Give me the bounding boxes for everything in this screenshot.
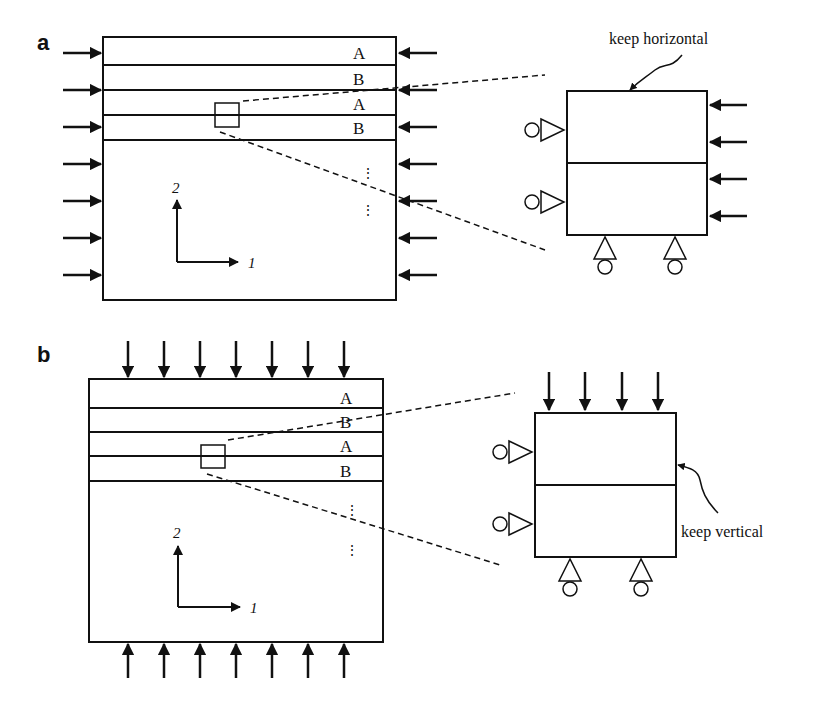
annotation-keep-horizontal: keep horizontal: [609, 30, 709, 48]
layer-label: A: [353, 95, 366, 114]
panel-label-a: a: [37, 30, 50, 55]
axis-label-1: 1: [250, 600, 258, 616]
panel-b: [89, 341, 718, 678]
svg-text:⋮: ⋮: [345, 543, 359, 558]
layer-label: B: [340, 413, 351, 432]
axis-label-2: 2: [173, 525, 181, 541]
svg-text:⋮: ⋮: [361, 203, 375, 218]
axis-label-1: 1: [248, 255, 256, 271]
layer-label: B: [340, 462, 351, 481]
svg-text:⋮: ⋮: [345, 503, 359, 518]
layer-label: B: [353, 70, 364, 89]
panel-a: [63, 37, 747, 300]
layer-label: A: [340, 437, 353, 456]
diagram: a b A B A B A B A B 2 1 2 1 keep horizon…: [0, 0, 821, 706]
layer-label: A: [353, 44, 366, 63]
annotation-keep-vertical: keep vertical: [681, 523, 764, 541]
layer-label: B: [353, 119, 364, 138]
layer-label: A: [340, 389, 353, 408]
panel-label-b: b: [37, 342, 50, 367]
svg-text:⋮: ⋮: [361, 166, 375, 181]
axis-label-2: 2: [172, 180, 180, 196]
